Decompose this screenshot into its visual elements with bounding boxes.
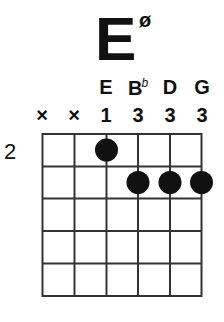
finger-dot [190,171,213,194]
fretboard-border [43,134,202,296]
finger-dot [95,139,118,162]
fretboard-grid [0,0,224,322]
finger-dot [127,171,150,194]
finger-dot [159,171,182,194]
